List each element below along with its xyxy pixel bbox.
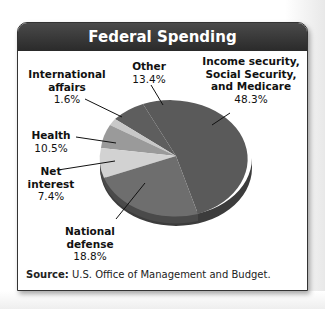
label-health: Health 10.5% (26, 129, 76, 154)
background-decoration-bottom (0, 291, 325, 309)
label-net-interest: Net interest 7.4% (26, 165, 76, 203)
label-income-security: Income security, Social Security, and Me… (196, 55, 306, 105)
source-note: Source: U.S. Office of Management and Bu… (26, 269, 271, 280)
label-national-defense: National defense 18.8% (58, 225, 122, 263)
label-international-affairs: International affairs 1.6% (26, 68, 108, 106)
chart-card: Federal Spending Income security, Social… (17, 22, 308, 291)
label-other: Other 13.4% (124, 60, 174, 85)
